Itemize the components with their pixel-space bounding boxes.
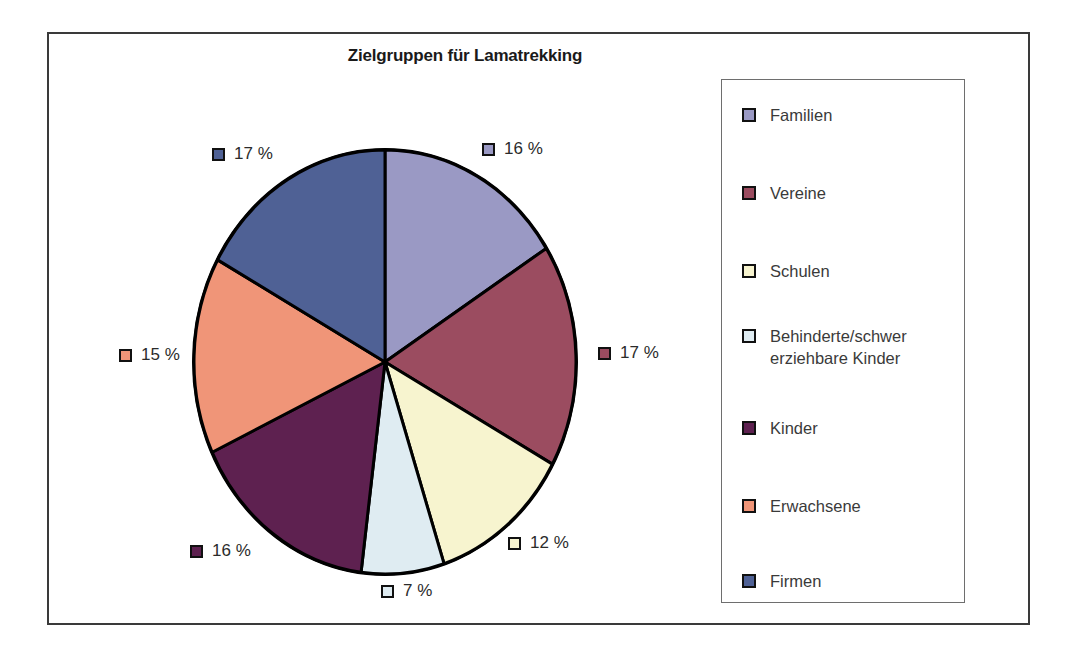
legend-swatch-kinder — [742, 421, 756, 435]
legend-item-firmen[interactable]: Firmen — [742, 570, 821, 592]
pie-label-firmen: 17 % — [212, 144, 273, 164]
legend-item-label: Kinder — [770, 417, 818, 439]
pie-label-swatch-vereine — [598, 347, 611, 360]
legend-item-kinder[interactable]: Kinder — [742, 417, 818, 439]
legend-swatch-vereine — [742, 186, 756, 200]
pie-label-swatch-behinderte — [381, 585, 394, 598]
legend-swatch-schulen — [742, 264, 756, 278]
pie-label-swatch-familien — [482, 143, 495, 156]
pie-label-schulen: 12 % — [508, 533, 569, 553]
legend-item-label: Familien — [770, 104, 832, 126]
pie-label-familien: 16 % — [482, 139, 543, 159]
pie-label-swatch-schulen — [508, 537, 521, 550]
legend-item-label: Behinderte/schwer erziehbare Kinder — [770, 325, 907, 370]
pie-label-erwachsene: 15 % — [119, 345, 180, 365]
legend-swatch-behinderte — [742, 329, 756, 343]
pie-label-swatch-firmen — [212, 148, 225, 161]
pie-label-behinderte: 7 % — [381, 581, 432, 601]
pie-label-text: 16 % — [212, 541, 251, 561]
pie-label-vereine: 17 % — [598, 343, 659, 363]
legend-item-behinderte[interactable]: Behinderte/schwer erziehbare Kinder — [742, 325, 907, 370]
legend-item-label: Schulen — [770, 260, 830, 282]
legend-item-erwachsene[interactable]: Erwachsene — [742, 495, 861, 517]
legend-swatch-familien — [742, 108, 756, 122]
pie-slice-group — [194, 150, 576, 574]
pie-label-swatch-kinder — [190, 545, 203, 558]
chart-legend: Familien Vereine Schulen Behinderte/schw… — [721, 79, 965, 603]
pie-label-text: 7 % — [403, 581, 432, 601]
pie-label-text: 15 % — [141, 345, 180, 365]
page-title: Zielgruppen für Lamatrekking — [0, 46, 930, 66]
pie-label-text: 17 % — [620, 343, 659, 363]
legend-item-schulen[interactable]: Schulen — [742, 260, 830, 282]
legend-item-label: Erwachsene — [770, 495, 861, 517]
pie-label-kinder: 16 % — [190, 541, 251, 561]
legend-swatch-firmen — [742, 574, 756, 588]
legend-item-label: Vereine — [770, 182, 826, 204]
pie-label-text: 12 % — [530, 533, 569, 553]
legend-swatch-erwachsene — [742, 499, 756, 513]
legend-item-label: Firmen — [770, 570, 821, 592]
legend-item-familien[interactable]: Familien — [742, 104, 832, 126]
legend-item-vereine[interactable]: Vereine — [742, 182, 826, 204]
pie-label-text: 16 % — [504, 139, 543, 159]
pie-label-text: 17 % — [234, 144, 273, 164]
pie-label-swatch-erwachsene — [119, 349, 132, 362]
